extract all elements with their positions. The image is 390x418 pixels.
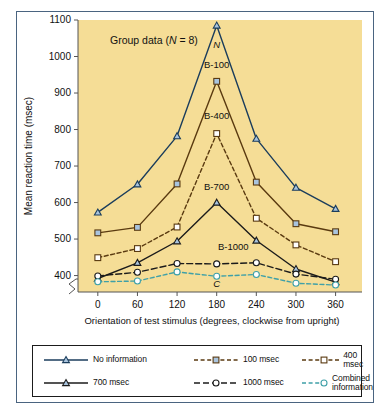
x-tick-label: 60 bbox=[132, 299, 144, 310]
legend-item-label: 700 msec bbox=[93, 378, 129, 387]
circle-marker bbox=[174, 261, 180, 267]
legend-item-label: Combined information bbox=[332, 374, 373, 392]
legend-item[interactable]: 1000 msec bbox=[193, 376, 301, 390]
data-point-marker bbox=[333, 276, 339, 282]
circle-marker bbox=[174, 269, 180, 275]
data-point-marker bbox=[214, 78, 220, 84]
data-point-marker bbox=[293, 221, 299, 227]
data-point-marker bbox=[214, 261, 220, 267]
square-open-marker bbox=[333, 259, 339, 265]
data-point-marker bbox=[253, 260, 259, 266]
data-point-marker bbox=[333, 282, 339, 288]
circle-marker bbox=[134, 278, 140, 284]
y-tick-label: 1000 bbox=[49, 51, 72, 62]
curve-label: B-400 bbox=[204, 110, 229, 121]
circle-marker bbox=[321, 380, 327, 386]
data-point-marker bbox=[214, 131, 220, 137]
data-point-marker bbox=[135, 246, 141, 252]
data-point-marker bbox=[95, 255, 101, 261]
legend-item-label: 1000 msec bbox=[243, 378, 284, 387]
legend-item[interactable]: No information bbox=[43, 353, 193, 367]
data-point-marker bbox=[174, 181, 180, 187]
data-point-marker bbox=[321, 380, 327, 386]
square-open-marker bbox=[174, 224, 180, 230]
circle-marker bbox=[95, 273, 101, 279]
data-point-marker bbox=[174, 224, 180, 230]
data-point-marker bbox=[293, 280, 299, 286]
data-point-marker bbox=[95, 273, 101, 279]
y-tick-label: 800 bbox=[54, 124, 71, 135]
y-tick-label: 400 bbox=[54, 270, 71, 281]
square-marker bbox=[293, 221, 299, 227]
y-axis-break-icon bbox=[69, 279, 78, 294]
square-open-marker bbox=[293, 242, 299, 248]
data-point-marker bbox=[253, 179, 259, 185]
square-marker bbox=[95, 230, 101, 236]
data-point-marker bbox=[174, 261, 180, 267]
data-point-marker bbox=[213, 380, 219, 386]
circle-marker bbox=[293, 271, 299, 277]
circle-marker bbox=[213, 380, 219, 386]
circle-marker bbox=[333, 282, 339, 288]
legend-swatch bbox=[193, 353, 239, 367]
curve-label: B-100 bbox=[204, 59, 229, 70]
square-open-marker bbox=[253, 215, 259, 221]
legend-swatch bbox=[43, 353, 89, 367]
legend-swatch bbox=[301, 376, 328, 390]
x-axis-title: Orientation of test stimulus (degrees, c… bbox=[84, 315, 339, 326]
circle-marker bbox=[134, 269, 140, 275]
circle-marker bbox=[333, 276, 339, 282]
legend-item[interactable]: 100 msec bbox=[193, 353, 301, 367]
y-tick-label: 700 bbox=[54, 160, 71, 171]
circle-marker bbox=[253, 260, 259, 266]
legend-item-label: No information bbox=[93, 355, 147, 364]
circle-marker bbox=[293, 280, 299, 286]
data-point-marker bbox=[213, 357, 219, 363]
square-marker bbox=[213, 357, 219, 363]
data-point-marker bbox=[135, 224, 141, 230]
legend-swatch bbox=[301, 353, 339, 367]
legend-item-label: 100 msec bbox=[243, 355, 279, 364]
legend-item-label: 400 msec bbox=[343, 351, 373, 369]
curve-label: N bbox=[213, 39, 220, 50]
data-point-marker bbox=[174, 269, 180, 275]
square-marker bbox=[174, 181, 180, 187]
circle-marker bbox=[214, 261, 220, 267]
legend-item[interactable]: 400 msec bbox=[301, 351, 373, 369]
y-tick-label: 900 bbox=[54, 87, 71, 98]
data-point-marker bbox=[293, 271, 299, 277]
square-marker bbox=[253, 179, 259, 185]
curve-label: B-700 bbox=[204, 181, 229, 192]
data-point-marker bbox=[321, 357, 327, 363]
legend-swatch bbox=[193, 376, 239, 390]
square-marker bbox=[135, 224, 141, 230]
data-point-marker bbox=[95, 279, 101, 285]
x-tick-label: 300 bbox=[288, 299, 305, 310]
x-tick-label: 360 bbox=[327, 299, 344, 310]
data-point-marker bbox=[333, 229, 339, 235]
data-point-marker bbox=[134, 269, 140, 275]
y-tick-label: 500 bbox=[54, 233, 71, 244]
legend-item[interactable]: 700 msec bbox=[43, 376, 193, 390]
curve-label: B-1000 bbox=[218, 241, 249, 252]
figure-root: 4005006007008009001000110006012018024030… bbox=[0, 0, 390, 418]
legend-swatch bbox=[43, 376, 89, 390]
x-tick-label: 0 bbox=[95, 299, 101, 310]
legend-item[interactable]: Combined information bbox=[301, 374, 373, 392]
data-point-marker bbox=[95, 230, 101, 236]
data-point-marker bbox=[333, 259, 339, 265]
square-open-marker bbox=[135, 246, 141, 252]
y-tick-label: 600 bbox=[54, 197, 71, 208]
square-open-marker bbox=[321, 357, 327, 363]
data-point-marker bbox=[253, 215, 259, 221]
data-point-marker bbox=[293, 242, 299, 248]
square-marker bbox=[333, 229, 339, 235]
x-tick-label: 180 bbox=[208, 299, 225, 310]
y-axis-title: Mean reaction time (msec) bbox=[23, 97, 34, 215]
circle-marker bbox=[253, 271, 259, 277]
y-tick-label: 1100 bbox=[49, 14, 71, 25]
square-open-marker bbox=[214, 131, 220, 137]
annotation-n-symbol: N bbox=[169, 34, 177, 46]
group-data-annotation: Group data (N = 8) bbox=[110, 34, 198, 46]
square-marker bbox=[214, 78, 220, 84]
